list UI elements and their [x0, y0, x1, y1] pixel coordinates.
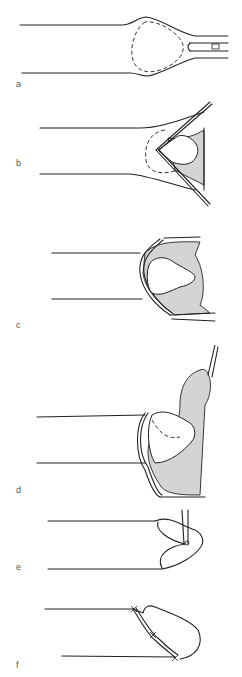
panel-b-drawing — [0, 100, 242, 225]
panel-d-drawing — [0, 345, 242, 500]
panel-f: f — [0, 575, 242, 677]
panel-label-d: d — [16, 485, 21, 495]
panel-d: d — [0, 345, 242, 500]
panel-label-c: c — [16, 320, 21, 330]
panel-label-a: a — [16, 79, 21, 89]
panel-label-b: b — [16, 158, 21, 168]
panel-c-drawing — [0, 225, 242, 345]
panel-e: e — [0, 500, 242, 575]
panel-a-drawing — [0, 0, 242, 100]
panel-f-drawing — [0, 575, 242, 677]
panel-label-e: e — [16, 562, 21, 572]
panel-b: b — [0, 100, 242, 225]
panel-c: c — [0, 225, 242, 345]
panel-label-f: f — [16, 660, 19, 670]
panel-e-drawing — [0, 500, 242, 575]
panel-a: a — [0, 0, 242, 100]
